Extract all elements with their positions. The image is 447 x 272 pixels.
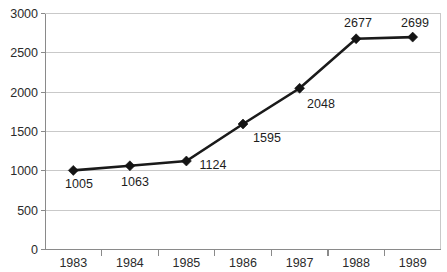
chart-canvas: 3000 2500 2000 1500 1000 500 0 1983 1984…	[0, 0, 447, 272]
line-chart-figure: 3000 2500 2000 1500 1000 500 0 1983 1984…	[0, 0, 447, 272]
data-label-1983: 1005	[65, 177, 93, 191]
data-label-1984: 1063	[121, 175, 149, 189]
data-label-1989: 2699	[401, 16, 429, 30]
y-axis-label-3000: 3000	[10, 7, 38, 21]
y-axis-label-500: 500	[17, 204, 38, 218]
y-axis-label-2000: 2000	[10, 86, 38, 100]
x-axis-label-1984: 1984	[116, 256, 144, 270]
data-label-1986: 1595	[253, 131, 281, 145]
x-axis-label-1986: 1986	[229, 256, 257, 270]
x-axis-label-1985: 1985	[172, 256, 200, 270]
x-axis-label-1989: 1989	[399, 256, 427, 270]
x-axis-label-1988: 1988	[342, 256, 370, 270]
y-axis-label-1000: 1000	[10, 164, 38, 178]
data-label-1985: 1124	[200, 158, 227, 172]
data-label-1987: 2048	[307, 97, 335, 111]
data-label-1988: 2677	[344, 16, 372, 30]
x-axis-label-1987: 1987	[286, 256, 314, 270]
y-axis-label-1500: 1500	[10, 125, 38, 139]
y-axis-label-0: 0	[31, 243, 38, 257]
x-axis-label-1983: 1983	[59, 256, 87, 270]
screenshot-root: 3000 2500 2000 1500 1000 500 0 1983 1984…	[0, 0, 447, 272]
y-axis-label-2500: 2500	[10, 46, 38, 60]
